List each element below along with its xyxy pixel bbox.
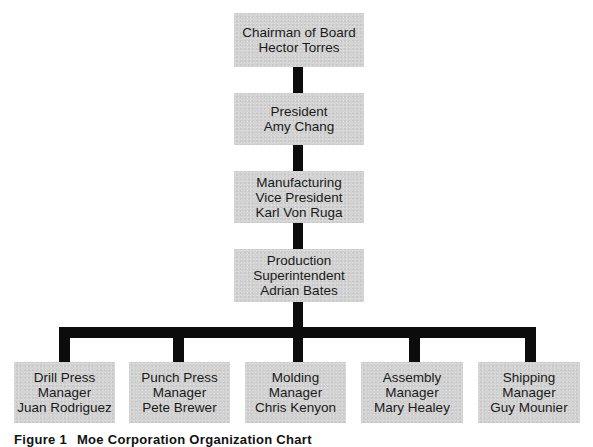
node-title-2: Manager [153,385,206,400]
node-president: President Amy Chang [234,93,364,145]
node-title: President [270,104,327,119]
connector-drop-shipping [525,327,536,362]
node-title: Chairman of Board [242,25,355,40]
node-person: Chris Kenyon [255,400,336,415]
node-title: Molding [272,370,319,385]
node-punch-press-manager: Punch Press Manager Pete Brewer [129,362,230,423]
node-person: Mary Healey [374,400,450,415]
node-person: Guy Mounier [490,400,567,415]
node-chairman: Chairman of Board Hector Torres [234,13,364,67]
figure-number: Figure 1 [14,432,67,447]
node-title-2: Manager [502,385,555,400]
connector-vp-superintendent [293,223,303,249]
figure-caption: Figure 1Moe Corporation Organization Cha… [14,432,312,447]
node-shipping-manager: Shipping Manager Guy Mounier [478,362,580,423]
node-person: Hector Torres [259,40,340,55]
node-title-2: Manager [385,385,438,400]
connector-drop-assembly [409,327,420,362]
node-title: Assembly [383,370,442,385]
node-title: Shipping [503,370,556,385]
node-person: Karl Von Ruga [255,205,342,220]
node-drill-press-manager: Drill Press Manager Juan Rodriguez [14,362,115,423]
connector-drop-punch-press [173,327,184,362]
node-production-superintendent: Production Superintendent Adrian Bates [234,249,364,302]
node-title: Punch Press [141,370,218,385]
node-person: Adrian Bates [260,283,337,298]
node-title: Manufacturing [256,175,342,190]
node-person: Pete Brewer [142,400,216,415]
node-title-2: Vice President [256,190,343,205]
node-assembly-manager: Assembly Manager Mary Healey [361,362,463,423]
node-title: Production [267,253,332,268]
connector-chairman-president [293,67,303,93]
connector-drop-drill-press [59,327,70,362]
connector-drop-molding [293,327,303,362]
node-title-2: Superintendent [253,268,345,283]
node-vp-manufacturing: Manufacturing Vice President Karl Von Ru… [234,171,364,223]
figure-caption-text: Moe Corporation Organization Chart [77,432,312,447]
node-person: Amy Chang [264,119,335,134]
node-title-2: Manager [38,385,91,400]
node-title: Drill Press [34,370,96,385]
node-molding-manager: Molding Manager Chris Kenyon [245,362,346,423]
connector-president-vp [293,145,303,171]
node-person: Juan Rodriguez [17,400,112,415]
node-title-2: Manager [269,385,322,400]
